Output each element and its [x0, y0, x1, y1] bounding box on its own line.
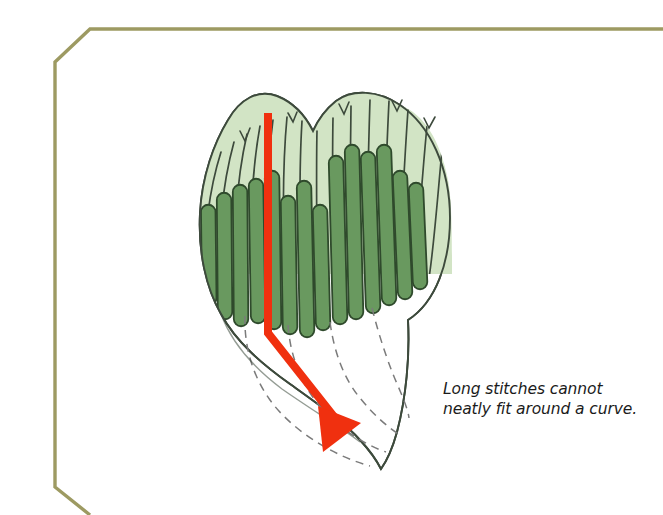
caption-line-1: Long stitches cannot: [443, 379, 653, 399]
caption-line-2: neatly fit around a curve.: [443, 399, 653, 419]
illustration-page: Long stitches cannot neatly fit around a…: [0, 0, 663, 515]
figure-canvas: [0, 0, 663, 515]
dark-stitch: [288, 203, 290, 327]
dark-stitch: [352, 152, 356, 312]
dark-stitch: [272, 178, 274, 322]
dark-stitch: [320, 212, 323, 323]
dark-stitch: [400, 178, 405, 292]
dark-stitch: [224, 200, 225, 312]
dark-stitch: [368, 159, 373, 306]
dark-stitch: [336, 163, 340, 317]
dark-stitch: [304, 188, 307, 330]
dark-stitch: [240, 192, 241, 319]
dark-stitch: [384, 152, 389, 298]
dark-stitch: [416, 190, 420, 282]
dark-stitch: [256, 186, 258, 316]
caption: Long stitches cannot neatly fit around a…: [443, 379, 653, 420]
